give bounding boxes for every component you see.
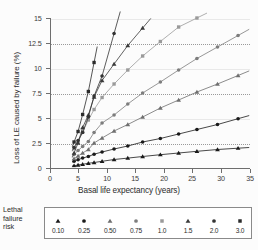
data-point bbox=[195, 128, 199, 132]
data-point bbox=[112, 82, 115, 85]
data-point bbox=[72, 140, 75, 143]
legend-label: 3.0 bbox=[236, 227, 245, 234]
data-point bbox=[177, 132, 181, 136]
data-point bbox=[76, 130, 79, 133]
legend-label: 1.5 bbox=[184, 227, 193, 234]
data-point bbox=[92, 152, 96, 156]
legend-item-1.5[interactable]: 1.5 bbox=[175, 208, 201, 240]
data-point bbox=[100, 74, 104, 78]
data-point bbox=[92, 131, 96, 135]
data-point bbox=[87, 90, 90, 93]
data-point bbox=[140, 115, 145, 119]
data-point bbox=[100, 96, 103, 99]
data-point bbox=[126, 102, 130, 106]
legend-label: 0.75 bbox=[130, 227, 142, 234]
legend-title-line-3: risk bbox=[3, 223, 43, 232]
series-1.5 bbox=[72, 18, 151, 157]
legend-item-0.50[interactable]: 0.50 bbox=[97, 208, 123, 240]
series-line-1.5 bbox=[72, 18, 151, 157]
legend-box: 0.100.250.500.751.01.52.03.0 bbox=[44, 207, 252, 239]
data-point bbox=[236, 34, 240, 38]
data-point bbox=[92, 94, 96, 98]
data-point bbox=[216, 45, 220, 49]
legend-label: 1.0 bbox=[158, 227, 167, 234]
data-point bbox=[100, 150, 104, 154]
data-point bbox=[177, 68, 181, 72]
legend-item-0.75[interactable]: 0.75 bbox=[123, 208, 149, 240]
data-point bbox=[141, 54, 144, 57]
legend-item-0.25[interactable]: 0.25 bbox=[71, 208, 97, 240]
data-point bbox=[126, 144, 130, 148]
legend-marker-circle-icon bbox=[77, 215, 91, 226]
data-point bbox=[81, 145, 85, 149]
legend-marker-triangle-icon bbox=[51, 215, 65, 226]
x-axis-title: Basal life expectancy (years) bbox=[0, 186, 258, 195]
data-point bbox=[125, 122, 130, 126]
chart-figure: Loss of LE caused by failure (%) 02.557.… bbox=[0, 0, 258, 250]
data-point bbox=[112, 32, 116, 36]
data-point bbox=[76, 158, 80, 162]
data-point bbox=[76, 154, 81, 158]
data-point bbox=[141, 140, 145, 144]
data-point bbox=[112, 113, 116, 117]
data-point bbox=[159, 137, 163, 141]
data-point bbox=[81, 156, 85, 160]
data-point bbox=[100, 136, 105, 140]
data-point bbox=[92, 141, 97, 145]
data-point bbox=[195, 16, 198, 19]
legend-item-3.0[interactable]: 3.0 bbox=[227, 208, 253, 240]
legend-marker-circle-icon bbox=[207, 215, 221, 226]
legend-item-0.10[interactable]: 0.10 bbox=[45, 208, 71, 240]
legend-item-2.0[interactable]: 2.0 bbox=[201, 208, 227, 240]
data-point bbox=[195, 57, 199, 61]
series-1.0 bbox=[72, 13, 207, 151]
data-point bbox=[159, 40, 162, 43]
data-point bbox=[87, 140, 91, 144]
data-point bbox=[112, 129, 117, 133]
legend-label: 0.50 bbox=[104, 227, 116, 234]
data-point bbox=[87, 115, 91, 119]
data-point bbox=[80, 151, 85, 155]
data-point bbox=[216, 123, 220, 127]
legend-label: 0.10 bbox=[52, 227, 64, 234]
data-point bbox=[126, 68, 129, 71]
legend-marker-square-icon bbox=[155, 215, 169, 226]
data-point bbox=[76, 139, 80, 143]
legend-marker-square-icon bbox=[233, 215, 247, 226]
legend-label: 0.25 bbox=[78, 227, 90, 234]
legend-item-1.0[interactable]: 1.0 bbox=[149, 208, 175, 240]
data-point bbox=[87, 155, 91, 159]
legend-marker-triangle-icon bbox=[103, 215, 117, 226]
data-point bbox=[92, 61, 95, 64]
data-point bbox=[81, 131, 85, 135]
legend-label: 2.0 bbox=[210, 227, 219, 234]
data-point bbox=[100, 121, 104, 125]
data-point bbox=[92, 108, 95, 111]
data-point bbox=[177, 25, 180, 28]
legend-title: Lethal failure risk bbox=[3, 206, 43, 232]
data-point bbox=[159, 80, 163, 84]
series-line-1.0 bbox=[72, 13, 207, 151]
data-point bbox=[112, 147, 116, 151]
data-point bbox=[236, 117, 240, 121]
data-point bbox=[76, 149, 80, 153]
legend-marker-triangle-icon bbox=[181, 215, 195, 226]
series-0.10 bbox=[72, 146, 250, 167]
data-point bbox=[141, 91, 145, 95]
series-line-0.10 bbox=[72, 147, 249, 166]
legend-marker-circle-icon bbox=[129, 215, 143, 226]
data-point bbox=[81, 113, 84, 116]
